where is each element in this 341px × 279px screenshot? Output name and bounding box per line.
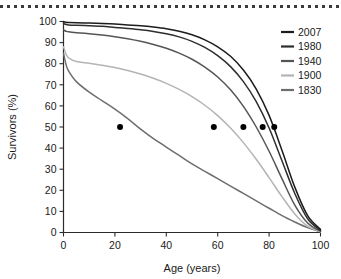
median-dot-1940: [240, 124, 246, 130]
x-axis-ticks: 020406080100: [61, 233, 330, 251]
y-tick-label: 10: [45, 205, 57, 217]
survival-curve-figure: 0102030405060708090100 020406080100 Age …: [0, 0, 341, 279]
median-dot-1980: [260, 124, 266, 130]
legend-label-2007: 2007: [298, 26, 322, 38]
y-axis-title: Survivors (%): [6, 94, 18, 160]
legend: 20071980194019001830: [281, 26, 322, 96]
legend-label-1940: 1940: [298, 55, 322, 67]
x-tick-label: 40: [160, 239, 172, 251]
y-tick-label: 50: [45, 121, 57, 133]
y-tick-label: 60: [45, 100, 57, 112]
median-dot-1900: [211, 124, 217, 130]
legend-label-1830: 1830: [298, 84, 322, 96]
median-dot-1830: [117, 124, 123, 130]
x-tick-label: 80: [263, 239, 275, 251]
curve-1980: [64, 24, 321, 231]
legend-label-1900: 1900: [298, 69, 322, 81]
x-tick-label: 100: [312, 239, 330, 251]
y-tick-label: 20: [45, 184, 57, 196]
x-tick-label: 20: [109, 239, 121, 251]
y-tick-label: 30: [45, 163, 57, 175]
x-tick-label: 0: [61, 239, 67, 251]
y-tick-label: 100: [39, 15, 57, 27]
survivorship-chart: 0102030405060708090100 020406080100 Age …: [0, 0, 341, 279]
y-axis-ticks: 0102030405060708090100: [39, 15, 64, 238]
y-tick-label: 90: [45, 36, 57, 48]
curve-2007: [64, 22, 321, 230]
x-axis-title: Age (years): [164, 262, 221, 274]
y-tick-label: 80: [45, 57, 57, 69]
survival-curves: [64, 22, 321, 232]
y-tick-label: 70: [45, 79, 57, 91]
median-dot-2007: [271, 124, 277, 130]
y-tick-label: 40: [45, 142, 57, 154]
x-tick-label: 60: [212, 239, 224, 251]
y-tick-label: 0: [51, 226, 57, 238]
legend-label-1980: 1980: [298, 40, 322, 52]
curve-1830: [64, 53, 321, 232]
